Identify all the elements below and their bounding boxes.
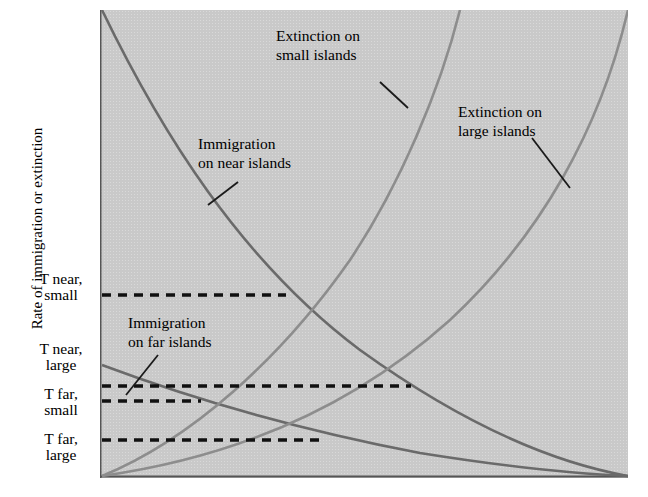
plot-area: Extinction on small islands Extinction o… [100,10,628,478]
label-extinction-small-islands-line1: Extinction on [276,26,360,45]
leader-extinction-small-islands [380,82,408,108]
label-immigration-far-islands-line1: Immigration [128,313,212,332]
label-immigration-near-islands: Immigration on near islands [198,134,291,172]
label-immigration-far-islands-line2: on far islands [128,332,212,351]
y-tick-t-near-large-line1: T near, [40,340,83,357]
curves-svg [100,10,628,478]
y-tick-t-far-large-line1: T far, [44,430,78,447]
label-immigration-near-islands-line2: on near islands [198,153,291,172]
label-extinction-large-islands-line2: large islands [458,121,542,140]
y-tick-t-far-small-line1: T far, [44,385,78,402]
y-tick-t-near-small: T near, small [26,271,96,303]
y-tick-t-far-small-line2: small [26,402,96,418]
curve-extinction-small-islands [102,10,460,476]
y-tick-t-far-large-line2: large [26,447,96,463]
label-extinction-large-islands-line1: Extinction on [458,102,542,121]
curve-immigration-far-islands [102,365,628,476]
label-immigration-far-islands: Immigration on far islands [128,313,212,351]
y-tick-t-near-small-line1: T near, [40,270,83,287]
y-tick-t-near-large-line2: large [26,357,96,373]
leader-immigration-near-islands [208,182,238,205]
y-axis-title: Rate of immigration or extinction [29,89,46,369]
curve-immigration-near-islands [102,10,628,476]
y-tick-t-near-small-line2: small [26,287,96,303]
y-tick-t-far-large: T far, large [26,431,96,463]
leader-extinction-large-islands [532,138,570,188]
label-extinction-small-islands: Extinction on small islands [276,26,360,64]
y-tick-t-far-small: T far, small [26,386,96,418]
label-extinction-small-islands-line2: small islands [276,45,360,64]
label-extinction-large-islands: Extinction on large islands [458,102,542,140]
y-tick-t-near-large: T near, large [26,341,96,373]
label-immigration-near-islands-line1: Immigration [198,134,291,153]
curve-extinction-large-islands [102,10,628,476]
island-biogeography-figure: Rate of immigration or extinction T near… [0,0,648,497]
